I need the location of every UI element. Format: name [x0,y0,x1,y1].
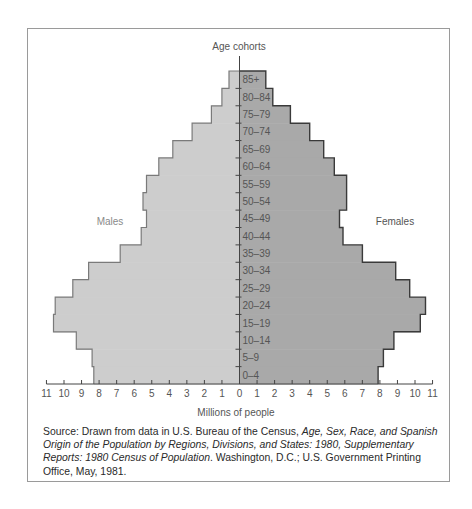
age-label: 65–69 [243,144,271,155]
male-bar-65-69 [173,141,240,159]
age-label: 70–74 [243,126,271,137]
age-label: 40–44 [243,231,271,242]
age-label: 85+ [243,74,260,85]
age-label: 5–9 [243,352,260,363]
age-label: 25–29 [243,283,271,294]
male-bar-55-59 [146,175,239,193]
male-bar-70-74 [192,123,239,141]
x-tick-label: 0 [237,388,243,399]
male-bar-20-24 [55,297,239,315]
age-label: 30–34 [243,265,271,276]
x-axis-title: Millions of people [0,407,472,418]
x-tick-label: 2 [202,388,208,399]
age-label: 80–84 [243,92,271,103]
male-bar-80-84 [222,88,240,106]
x-tick-label: 6 [131,388,137,399]
age-label: 10–14 [243,335,271,346]
age-label: 45–49 [243,213,271,224]
source-caption: Source: Drawn from data in U.S. Bureau o… [43,425,443,478]
male-bar-75-79 [211,106,239,124]
male-bar-15-19 [53,314,239,332]
x-tick-label: 6 [342,388,348,399]
male-bar-10-14 [76,332,239,350]
females-label: Females [376,216,414,227]
male-bar-25-29 [73,280,240,298]
x-tick-label: 10 [409,388,421,399]
age-label: 75–79 [243,109,271,120]
age-label: 60–64 [243,161,271,172]
male-bar-60-64 [159,158,240,176]
age-label: 55–59 [243,179,271,190]
x-tick-label: 9 [395,388,401,399]
female-bar-0-4 [240,367,379,385]
x-tick-label: 5 [324,388,330,399]
x-tick-label: 8 [96,388,102,399]
x-tick-label: 2 [272,388,278,399]
caption-text-1: Source: Drawn from data in U.S. Bureau o… [43,426,302,437]
male-bar-45-49 [146,210,239,228]
age-label: 35–39 [243,248,271,259]
age-label: 15–19 [243,318,271,329]
x-tick-label: 11 [427,388,438,399]
x-tick-label: 1 [254,388,260,399]
x-tick-label: 1 [219,388,225,399]
x-tick-label: 8 [377,388,383,399]
male-bar-5-9 [92,349,239,367]
male-bar-85+ [229,71,240,89]
x-tick-label: 4 [307,388,313,399]
male-bar-0-4 [94,367,240,385]
x-tick-label: 5 [149,388,155,399]
age-label: 50–54 [243,196,271,207]
age-label: 20–24 [243,300,271,311]
x-tick-label: 9 [79,388,85,399]
males-label: Males [97,216,124,227]
age-label: 0–4 [243,370,260,381]
x-tick-label: 7 [114,388,120,399]
female-bar-5-9 [240,349,384,367]
male-bar-35-39 [120,245,239,263]
male-bar-50-54 [143,193,240,211]
male-bar-40-44 [141,228,239,246]
x-tick-label: 4 [167,388,173,399]
x-tick-label: 3 [184,388,190,399]
x-tick-label: 3 [289,388,295,399]
male-bar-30-34 [89,262,240,280]
x-tick-label: 10 [58,388,70,399]
x-tick-label: 7 [360,388,366,399]
x-tick-label: 11 [41,388,52,399]
